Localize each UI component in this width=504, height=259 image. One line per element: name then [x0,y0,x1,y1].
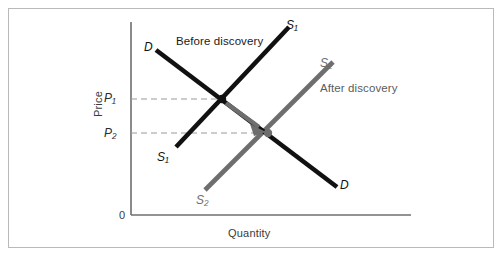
demand-label-bottom: D [340,178,349,192]
annotation-after-discovery: After discovery [320,82,398,94]
annotation-before-discovery: Before discovery [176,35,263,47]
equilibrium-shift-arrow [226,103,266,136]
x-axis-title: Quantity [228,227,271,239]
supply-after-label-top: S₂ [320,56,333,70]
equilibrium-point-2 [264,129,272,137]
y-axis-title: Price [92,82,104,126]
supply-after-label-bottom: S₂ [196,193,209,207]
supply-before-label-top: S₁ [286,18,298,32]
price-tick-p2: P₂ [104,126,117,140]
equilibrium-point-1 [218,95,226,103]
origin-label: 0 [119,209,125,221]
figure-canvas: Price Quantity 0 P₁ P₂ S₁ S₁ S₂ S₂ D D B… [0,0,504,259]
demand-label-top: D [144,40,153,54]
supply-before-label-bottom: S₁ [157,150,169,164]
price-tick-p1: P₁ [104,91,116,105]
